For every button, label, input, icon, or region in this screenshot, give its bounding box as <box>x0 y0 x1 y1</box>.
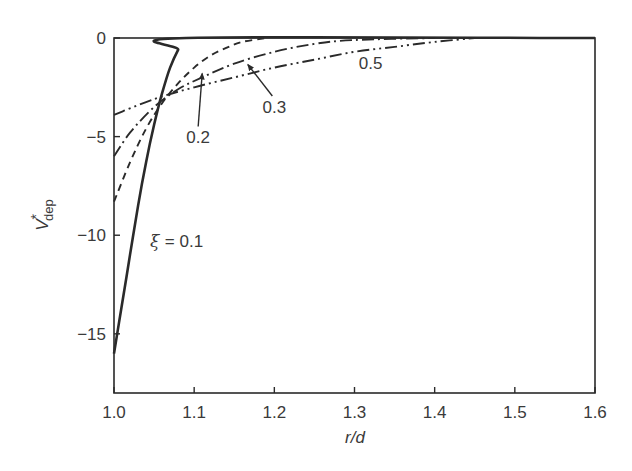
y-tick-label: −15 <box>77 325 106 344</box>
annotation-label: ξ = 0.1 <box>150 231 203 251</box>
x-axis-label: r/d <box>345 428 365 447</box>
xi-symbol: ξ <box>150 231 165 251</box>
series-line-xi-0.2 <box>114 38 266 202</box>
x-tick-label: 1.3 <box>343 403 367 422</box>
x-tick-label: 1.2 <box>263 403 287 422</box>
series-layer <box>114 37 595 353</box>
x-tick-label: 1.4 <box>423 403 447 422</box>
plot-frame <box>114 38 595 393</box>
annotation-label: 0.2 <box>186 128 210 147</box>
annotation-label: 0.5 <box>359 54 383 73</box>
y-axis-label: V*dep <box>28 199 56 231</box>
y-tick-label: −10 <box>77 226 106 245</box>
annotation-arrow <box>198 74 202 127</box>
y-axis-label-sub: dep <box>41 199 56 221</box>
annotation-arrow <box>248 65 272 96</box>
x-tick-label: 1.1 <box>182 403 206 422</box>
annotation-label: 0.3 <box>263 98 287 117</box>
x-tick-label: 1.6 <box>583 403 607 422</box>
x-tick-label: 1.0 <box>102 403 126 422</box>
line-chart: 1.01.11.21.31.41.51.6 0−5−10−15 ξ = 0.10… <box>0 0 632 471</box>
x-tick-label: 1.5 <box>503 403 527 422</box>
y-tick-label: −5 <box>87 128 106 147</box>
annotations: ξ = 0.10.20.30.5 <box>150 54 382 251</box>
series-line-xi-0.1 <box>114 37 595 353</box>
plot-border <box>114 38 595 393</box>
y-tick-label: 0 <box>97 29 106 48</box>
